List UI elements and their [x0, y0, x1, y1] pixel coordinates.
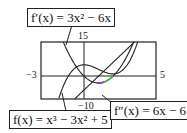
fprime-label: f′(x) = 3x² − 6x	[27, 8, 115, 27]
plot-frame	[41, 42, 156, 99]
highlight-segment	[104, 76, 113, 82]
highlight-segment	[97, 82, 104, 83]
fdoubleprime-label: f″(x) = 6x − 6	[110, 101, 187, 120]
f-label: f(x) = x³ − 3x² + 5	[9, 110, 112, 129]
y-max-tick: 15	[78, 30, 88, 41]
x-max-tick: 5	[160, 69, 165, 80]
leader-f	[62, 93, 66, 111]
curves	[59, 42, 138, 99]
x-min-tick: −3	[26, 69, 37, 80]
